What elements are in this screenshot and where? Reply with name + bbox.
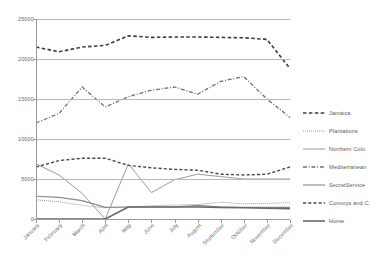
line-chart: 0500010000150002000025000 JanuaryFebruar… [0, 0, 384, 269]
grid-line [36, 179, 290, 180]
legend-swatch-secretservice [303, 181, 325, 189]
y-axis-tick-mark [33, 99, 36, 100]
legend-item-jamaica[interactable]: Jamaica [303, 104, 384, 122]
legend-item-mediterranean[interactable]: Mediterranean [303, 158, 384, 176]
grid-line [36, 99, 290, 100]
chart-legend: JamaicaPlantationsNorthern ColoMediterra… [303, 104, 384, 230]
y-axis-tick-mark [33, 139, 36, 140]
y-axis-tick-label: 20000 [2, 56, 34, 62]
legend-swatch-home [303, 217, 325, 225]
legend-label-northern-colo: Northern Colo [329, 146, 365, 152]
y-axis-tick-label: 15000 [2, 96, 34, 102]
grid-line [36, 59, 290, 60]
y-axis-tick-mark [33, 19, 36, 20]
y-axis-tick-mark [33, 59, 36, 60]
y-axis-tick-mark [33, 179, 36, 180]
legend-label-convoys-and-c: Convoys and C. [329, 200, 370, 206]
y-axis-tick-label: 10000 [2, 136, 34, 142]
legend-swatch-jamaica [303, 109, 325, 117]
legend-label-secretservice: SecretService [329, 182, 365, 188]
plot-area [36, 19, 290, 219]
legend-item-plantations[interactable]: Plantations [303, 122, 384, 140]
y-axis-tick-mark [33, 219, 36, 220]
legend-label-plantations: Plantations [329, 128, 358, 134]
y-axis-tick-label: 25000 [2, 16, 34, 22]
y-axis-tick-label: 5000 [2, 176, 34, 182]
y-axis-line [36, 19, 37, 219]
legend-item-secretservice[interactable]: SecretService [303, 176, 384, 194]
grid-line [36, 19, 290, 20]
legend-label-jamaica: Jamaica [329, 110, 351, 116]
legend-swatch-mediterranean [303, 163, 325, 171]
series-layer [36, 19, 290, 219]
legend-item-home[interactable]: Home [303, 212, 384, 230]
grid-line [36, 139, 290, 140]
y-axis-labels: 0500010000150002000025000 [0, 0, 34, 240]
legend-item-northern-colo[interactable]: Northern Colo [303, 140, 384, 158]
legend-swatch-convoys-and-c [303, 199, 325, 207]
legend-swatch-plantations [303, 127, 325, 135]
series-line-jamaica [36, 36, 290, 69]
y-axis-tick-label: 0 [2, 216, 34, 222]
legend-label-mediterranean: Mediterranean [329, 164, 366, 170]
series-line-convoys-and-c [36, 158, 290, 175]
legend-label-home: Home [329, 218, 344, 224]
legend-item-convoys-and-c[interactable]: Convoys and C. [303, 194, 384, 212]
legend-swatch-northern-colo [303, 145, 325, 153]
